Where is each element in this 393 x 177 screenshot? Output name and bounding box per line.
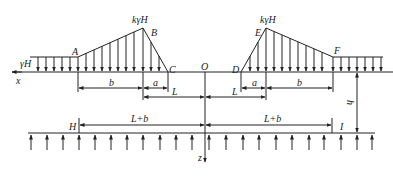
label-bottom-left: L+b [130,113,148,124]
right-load-outline [241,28,383,72]
label-point-h: H [68,121,77,132]
load-diagram: γH x A kγH B C O D kγH E F b a L L a b h… [0,0,393,177]
label-bottom-right: L+b [263,113,281,124]
label-point-b: B [151,27,157,38]
label-point-d: D [231,64,240,75]
label-point-f: F [333,45,341,56]
label-point-i: I [339,121,344,132]
label-x-axis: x [15,75,21,86]
label-dim-right-l: L [231,86,238,97]
label-point-e: E [254,27,261,38]
label-depth-h: h [345,100,356,105]
label-dim-left-a: a [153,77,158,88]
label-dim-right-b: b [297,77,302,88]
left-surcharge-arrows [38,28,159,71]
label-point-c: C [169,64,176,75]
label-dim-left-l: L [171,86,178,97]
left-load-outline [30,28,168,72]
label-point-o: O [201,61,208,72]
label-point-a: A [71,46,79,57]
bottom-reaction-arrows [31,135,372,150]
label-gamma-h: γH [20,58,32,69]
label-dim-left-b: b [109,77,114,88]
label-right-peak: kγH [260,14,276,25]
label-z-axis: z [197,152,202,163]
label-left-peak: kγH [132,14,148,25]
label-dim-right-a: a [252,77,257,88]
